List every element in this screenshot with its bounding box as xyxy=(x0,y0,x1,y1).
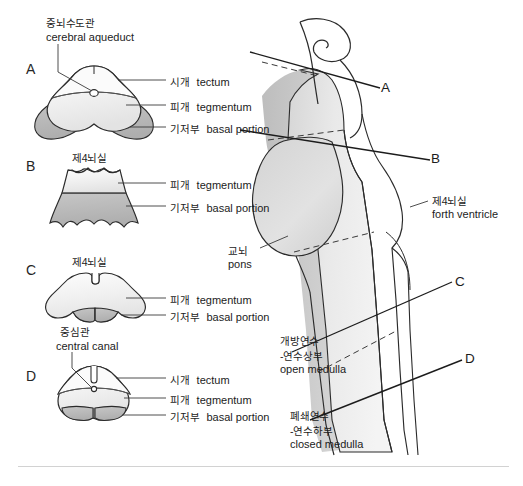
label-fourth-ventricle: 제4뇌실 forth ventricle xyxy=(432,193,498,220)
section-b-basal xyxy=(50,193,138,227)
dorsal-surface-outline xyxy=(392,248,418,455)
label-cerebral-aqueduct-en: cerebral aqueduct xyxy=(46,31,134,44)
label-c-tegmentum-ko: 피개 xyxy=(170,292,190,307)
label-c-fourth-ventricle-ko: 제4뇌실 xyxy=(72,256,107,269)
label-b-basal-ko: 기저부 xyxy=(170,200,199,215)
section-line-letter-a: A xyxy=(381,80,390,95)
sagittal-brainstem-drawing xyxy=(253,19,418,455)
label-pons-en: pons xyxy=(228,258,252,270)
label-pons-ko: 교뇌 xyxy=(228,243,252,258)
label-d-tegmentum-ko: 피개 xyxy=(170,392,190,407)
label-a-basal-en: basal portion xyxy=(206,123,269,135)
section-d-dorsal-fissure xyxy=(91,366,97,383)
panel-letter-a: A xyxy=(26,61,36,77)
label-a-tegmentum: 피개tegmentum xyxy=(170,99,252,114)
label-a-tectum-ko: 시개 xyxy=(170,74,190,89)
label-a-basal-portion: 기저부basal portion xyxy=(170,121,269,136)
label-central-canal-en: central canal xyxy=(56,340,118,353)
label-cerebral-aqueduct-ko: 중뇌수도관 xyxy=(46,17,95,30)
label-closed-medulla-ko: 폐쇄연수 xyxy=(290,408,363,423)
label-a-tegmentum-en: tegmentum xyxy=(197,101,252,113)
label-a-tegmentum-ko: 피개 xyxy=(170,99,190,114)
label-open-medulla-ko2: -연수상부 xyxy=(280,348,346,363)
label-c-basal-portion: 기저부basal portion xyxy=(170,309,269,324)
figure-canvas: A B C D 중뇌수도관 cerebral aqueduct 시개tectum… xyxy=(0,0,523,486)
panel-letter-b: B xyxy=(26,158,36,174)
section-d-basal-left xyxy=(62,407,93,421)
section-d-basal-right xyxy=(95,407,126,421)
label-a-basal-ko: 기저부 xyxy=(170,121,199,136)
label-d-tegmentum: 피개tegmentum xyxy=(170,392,252,407)
panel-letter-c: C xyxy=(26,262,37,278)
label-fourth-ventricle-ko: 제4뇌실 xyxy=(432,193,498,208)
label-c-basal-en: basal portion xyxy=(206,311,269,323)
label-b-fourth-ventricle-ko: 제4뇌실 xyxy=(72,152,107,165)
footer-divider-rule xyxy=(18,466,509,467)
label-d-tectum: 시개tectum xyxy=(170,372,230,387)
label-d-basal-ko: 기저부 xyxy=(170,409,199,424)
label-fourth-ventricle-en: forth ventricle xyxy=(432,208,498,220)
label-d-tegmentum-en: tegmentum xyxy=(197,394,252,406)
label-open-medulla-en: open medulla xyxy=(280,363,346,375)
label-b-basal-en: basal portion xyxy=(206,202,269,214)
label-open-medulla-ko: 개방연수 xyxy=(280,333,346,348)
label-a-tectum: 시개tectum xyxy=(170,74,230,89)
label-b-basal-portion: 기저부basal portion xyxy=(170,200,269,215)
section-line-letter-b: B xyxy=(431,151,440,166)
label-d-basal-portion: 기저부basal portion xyxy=(170,409,269,424)
cross-section-b-drawing xyxy=(50,168,138,227)
label-d-tectum-en: tectum xyxy=(197,374,230,386)
section-line-letter-c: C xyxy=(455,274,465,289)
central-canal-opening xyxy=(91,386,96,391)
label-b-tegmentum: 피개tegmentum xyxy=(170,177,252,192)
label-central-canal-ko: 중심관 xyxy=(60,326,89,339)
label-pons: 교뇌 pons xyxy=(228,243,252,270)
label-b-tegmentum-ko: 피개 xyxy=(170,177,190,192)
pons-bulge xyxy=(253,137,343,256)
label-a-tectum-en: tectum xyxy=(197,76,230,88)
label-b-tegmentum-en: tegmentum xyxy=(197,179,252,191)
cross-section-a-drawing xyxy=(35,66,154,139)
label-c-basal-ko: 기저부 xyxy=(170,309,199,324)
section-c-ventricle-notch xyxy=(92,273,99,284)
label-closed-medulla: 폐쇄연수 -연수하부 closed medulla xyxy=(290,408,363,450)
label-d-basal-en: basal portion xyxy=(206,411,269,423)
label-c-tegmentum-en: tegmentum xyxy=(197,294,252,306)
panel-letter-d: D xyxy=(26,368,37,384)
label-c-tegmentum: 피개tegmentum xyxy=(170,292,252,307)
label-open-medulla: 개방연수 -연수상부 open medulla xyxy=(280,333,346,375)
leader-fourth-ventricle xyxy=(410,201,428,207)
label-closed-medulla-ko2: -연수하부 xyxy=(290,423,363,438)
label-closed-medulla-en: closed medulla xyxy=(290,438,363,450)
label-d-tectum-ko: 시개 xyxy=(170,372,190,387)
section-line-letter-d: D xyxy=(465,351,475,366)
cross-section-d-drawing xyxy=(58,366,130,420)
sagittal-tectum-hook xyxy=(300,19,350,62)
